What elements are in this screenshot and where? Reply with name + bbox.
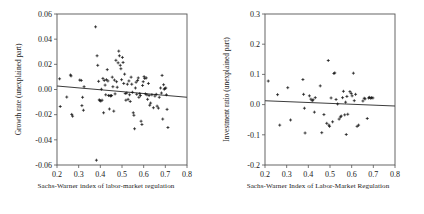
data-point-marker bbox=[361, 99, 364, 102]
investment-y-tick-label: -0.1 bbox=[247, 131, 260, 140]
data-point-marker bbox=[126, 83, 129, 86]
growth-y-tick-label: -0.02 bbox=[35, 110, 52, 119]
data-point-marker bbox=[336, 102, 339, 105]
data-point-marker bbox=[162, 83, 165, 86]
data-point-marker bbox=[314, 96, 317, 99]
data-point-marker bbox=[301, 78, 304, 81]
data-point-marker bbox=[302, 93, 305, 96]
data-point-marker bbox=[130, 76, 133, 79]
data-point-marker bbox=[160, 92, 163, 95]
data-point-marker bbox=[161, 74, 164, 77]
data-point-marker bbox=[129, 100, 132, 103]
data-point-marker bbox=[59, 105, 62, 108]
data-point-marker bbox=[278, 124, 281, 127]
investment-plot-frame bbox=[265, 14, 395, 165]
data-point-marker bbox=[331, 120, 334, 123]
investment-x-tick-label: 0.6 bbox=[347, 170, 357, 179]
growth-trend-line bbox=[57, 86, 187, 97]
data-point-marker bbox=[166, 108, 169, 111]
growth-plot-frame bbox=[57, 14, 187, 165]
data-point-marker bbox=[142, 80, 145, 83]
data-point-marker bbox=[132, 114, 135, 117]
data-point-marker bbox=[123, 73, 126, 76]
data-point-marker bbox=[131, 91, 134, 94]
investment-x-tick-label: 0.4 bbox=[303, 170, 313, 179]
data-point-marker bbox=[95, 159, 98, 162]
data-point-marker bbox=[286, 86, 289, 89]
investment-y-tick-label: 0.2 bbox=[250, 40, 260, 49]
data-point-marker bbox=[135, 81, 138, 84]
data-point-marker bbox=[313, 111, 316, 114]
data-point-marker bbox=[152, 106, 155, 109]
data-point-marker bbox=[138, 92, 141, 95]
data-point-marker bbox=[122, 61, 125, 64]
data-point-marker bbox=[114, 59, 117, 62]
data-point-marker bbox=[117, 61, 120, 64]
scatter-panel-growth: 0.20.30.40.50.60.70.8-0.06-0.04-0.020.00… bbox=[0, 0, 212, 214]
investment-y-tick-label: 0.0 bbox=[250, 100, 260, 109]
growth-x-tick-label: 0.3 bbox=[74, 170, 84, 179]
data-point-marker bbox=[122, 82, 125, 85]
growth-x-axis-caption: Sachs-Warner index of labor-market regul… bbox=[0, 183, 212, 191]
data-point-marker bbox=[344, 101, 347, 104]
data-point-marker bbox=[289, 119, 292, 122]
data-point-marker bbox=[140, 123, 143, 126]
data-point-marker bbox=[303, 107, 306, 110]
investment-x-tick-label: 0.7 bbox=[368, 170, 378, 179]
data-point-marker bbox=[158, 96, 161, 99]
data-point-marker bbox=[346, 113, 349, 116]
data-point-marker bbox=[117, 50, 120, 53]
data-point-marker bbox=[78, 79, 81, 82]
data-point-marker bbox=[341, 96, 344, 99]
data-point-marker bbox=[147, 82, 150, 85]
investment-x-tick-label: 0.8 bbox=[390, 170, 400, 179]
data-point-marker bbox=[119, 64, 122, 67]
data-point-marker bbox=[102, 111, 105, 114]
data-point-marker bbox=[81, 96, 84, 99]
data-point-marker bbox=[335, 98, 338, 101]
data-point-marker bbox=[139, 94, 142, 97]
growth-x-tick-label: 0.5 bbox=[117, 170, 127, 179]
investment-y-axis-title: Investment ratio (unexplained part) bbox=[222, 37, 231, 142]
data-point-marker bbox=[132, 111, 135, 114]
growth-chart-svg: 0.20.30.40.50.60.70.8-0.06-0.04-0.020.00… bbox=[0, 0, 212, 180]
investment-x-tick-label: 0.2 bbox=[260, 170, 270, 179]
data-point-marker bbox=[111, 85, 114, 88]
data-point-marker bbox=[353, 99, 356, 102]
data-point-marker bbox=[128, 93, 131, 96]
data-point-marker bbox=[112, 110, 115, 113]
data-point-marker bbox=[104, 93, 107, 96]
data-point-marker bbox=[115, 80, 118, 83]
growth-y-tick-label: -0.06 bbox=[35, 161, 52, 170]
growth-y-axis-title: Growth rate (unexplained part) bbox=[14, 43, 23, 135]
data-point-marker bbox=[136, 79, 139, 82]
investment-chart-svg: 0.20.30.40.50.60.70.8-0.2-0.10.00.10.20.… bbox=[212, 0, 424, 180]
data-point-marker bbox=[366, 117, 369, 120]
scatter-panel-investment: 0.20.30.40.50.60.70.8-0.2-0.10.00.10.20.… bbox=[212, 0, 424, 214]
data-point-marker bbox=[319, 84, 322, 87]
growth-data-points bbox=[58, 25, 169, 161]
data-point-marker bbox=[342, 90, 345, 93]
investment-trend-line bbox=[265, 101, 395, 106]
data-point-marker bbox=[80, 104, 83, 107]
data-point-marker bbox=[58, 77, 61, 80]
data-point-marker bbox=[330, 96, 333, 99]
data-point-marker bbox=[276, 93, 279, 96]
data-point-marker bbox=[106, 68, 109, 71]
growth-y-tick-label: 0.06 bbox=[38, 10, 52, 19]
data-point-marker bbox=[267, 80, 270, 83]
data-point-marker bbox=[345, 133, 348, 136]
investment-data-points bbox=[267, 59, 375, 136]
data-point-marker bbox=[80, 79, 83, 82]
data-point-marker bbox=[111, 76, 114, 79]
data-point-marker bbox=[322, 113, 325, 116]
data-point-marker bbox=[327, 59, 330, 62]
data-point-marker bbox=[113, 79, 116, 82]
data-point-marker bbox=[143, 77, 146, 80]
data-point-marker bbox=[118, 54, 121, 57]
data-point-marker bbox=[96, 64, 99, 67]
data-point-marker bbox=[94, 25, 97, 28]
growth-y-tick-label: 0.02 bbox=[38, 60, 52, 69]
investment-y-tick-label: 0.1 bbox=[250, 70, 260, 79]
data-point-marker bbox=[130, 83, 133, 86]
